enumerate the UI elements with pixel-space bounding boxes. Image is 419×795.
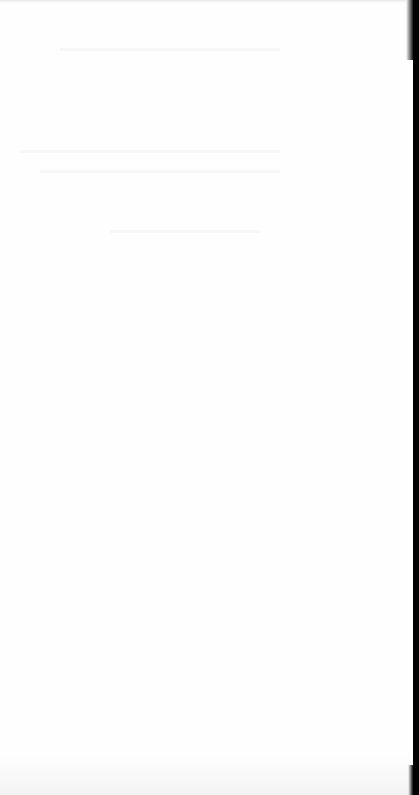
faint-bleed-through-line	[20, 150, 280, 153]
right-edge-shadow	[406, 0, 413, 60]
top-scan-edge	[0, 0, 407, 3]
blank-document-page	[0, 0, 419, 795]
bottom-scan-noise	[0, 755, 412, 795]
right-scan-border	[413, 0, 419, 795]
faint-bleed-through-line	[40, 170, 280, 173]
faint-bleed-through-line	[110, 230, 260, 233]
faint-bleed-through-line	[60, 48, 280, 51]
